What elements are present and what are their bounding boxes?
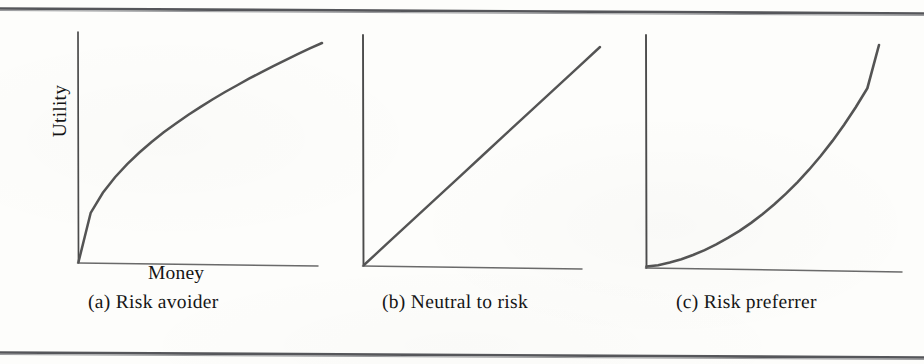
caption-panel-c: (c) Risk preferrer (676, 292, 817, 314)
panel-c-utility-curve (647, 45, 880, 267)
caption-panel-b: (b) Neutral to risk (382, 292, 528, 314)
panel-b-utility-curve (364, 47, 600, 265)
panel-a-y-axis (78, 32, 79, 263)
x-axis-label-money: Money (148, 262, 204, 284)
figure-container: Utility Money (a) Risk avoider (b) Neutr… (0, 0, 924, 364)
panel-b-x-axis (363, 266, 583, 269)
bottom-horizontal-rule (0, 330, 924, 364)
chart-panel-b (340, 0, 630, 300)
panel-a-utility-curve (79, 43, 323, 262)
panel-b-y-axis (363, 35, 364, 266)
panel-a-axes (78, 32, 319, 266)
panel-b-axes (363, 35, 583, 269)
caption-panel-a: (a) Risk avoider (88, 292, 218, 314)
panel-c-axes (646, 35, 903, 272)
y-axis-label-utility: Utility (49, 59, 71, 163)
panel-c-x-axis (646, 268, 903, 272)
panel-c-y-axis (646, 35, 647, 268)
chart-panel-c (620, 0, 924, 300)
